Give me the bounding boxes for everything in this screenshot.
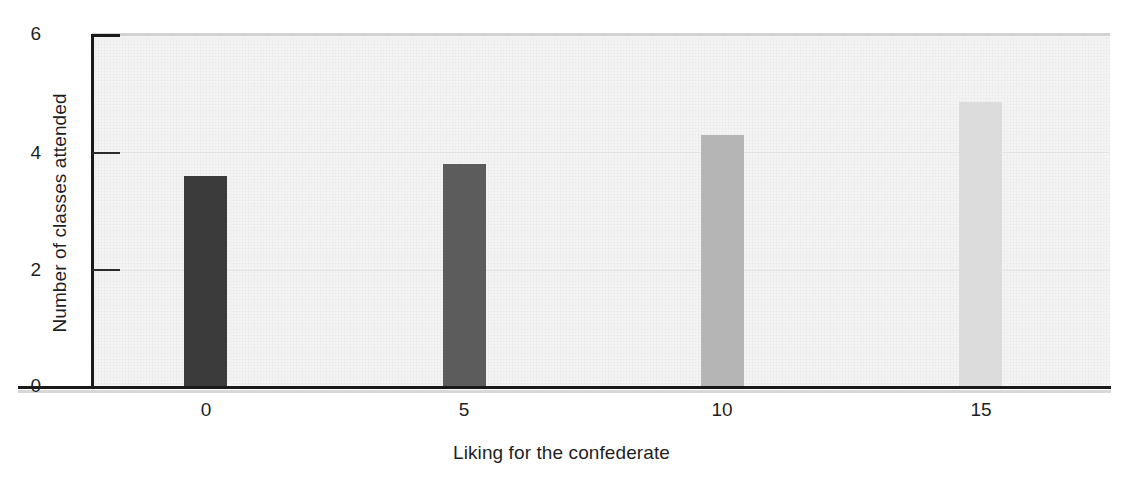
y-tick-label-2: 2 [1, 260, 41, 279]
x-tick-label-0: 0 [176, 400, 236, 419]
y-axis-line [91, 34, 94, 389]
x-tick-label-10: 10 [692, 400, 752, 419]
bar-10 [701, 135, 744, 387]
x-tick-label-5: 5 [434, 400, 494, 419]
x-axis-line-shadow [18, 390, 1111, 393]
bar-0 [184, 176, 227, 387]
bar-15 [959, 102, 1002, 387]
y-tick-label-0: 0 [1, 376, 41, 395]
x-tick-label-15: 15 [951, 400, 1011, 419]
y-axis-tick-6 [92, 34, 120, 37]
plot-area [92, 35, 1110, 387]
x-axis-title: Liking for the confederate [0, 442, 1123, 464]
y-tick-label-6: 6 [1, 24, 41, 43]
y-axis-title: Number of classes attended [49, 33, 71, 393]
y-tick-label-4: 4 [1, 143, 41, 162]
bar-chart-figure: Number of classes attended 6 4 2 0 0 5 1… [0, 0, 1123, 480]
bars-layer [92, 35, 1110, 387]
y-axis-tick-4 [92, 152, 120, 154]
y-axis-tick-2 [92, 269, 120, 271]
bar-5 [443, 164, 486, 387]
x-axis-line [18, 386, 1111, 389]
panel-top-edge [92, 33, 1110, 36]
